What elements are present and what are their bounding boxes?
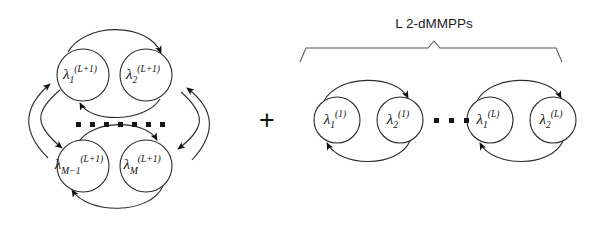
node-superscript: (L): [551, 109, 563, 120]
node-subscript: 2: [132, 75, 137, 85]
node-circle: [530, 97, 576, 143]
node-lambda-1-Lplus1[interactable]: λ1(L+1): [57, 49, 109, 101]
left-cluster-ellipsis: [76, 122, 165, 127]
figure-root: λ1(L+1) λ2(L+1) λM−1(L+1) λM(L+1): [0, 0, 614, 236]
edge-right-down: [178, 92, 199, 149]
right-cluster-ellipsis: [434, 118, 469, 123]
node-circle: [314, 97, 360, 143]
node-superscript: (L+1): [80, 154, 103, 165]
node-subscript: 1: [483, 120, 488, 130]
node-superscript: (1): [335, 109, 346, 120]
node-lambda-2-L[interactable]: λ2(L): [530, 97, 576, 143]
edge-left-down: [41, 90, 62, 148]
left-cluster-group: λ1(L+1) λ2(L+1) λM−1(L+1) λM(L+1): [29, 30, 210, 209]
node-subscript: 2: [393, 120, 398, 130]
node-circle: [467, 97, 513, 143]
edge-left-up: [29, 84, 50, 158]
edge-pairL-return: [480, 141, 563, 162]
node-lambda-M-Lplus1[interactable]: λM(L+1): [120, 140, 172, 192]
mmpp-superposition-diagram: λ1(L+1) λ2(L+1) λM−1(L+1) λM(L+1): [0, 0, 614, 236]
node-subscript: 1: [330, 120, 335, 130]
node-superscript: (1): [398, 109, 409, 120]
node-lambda-1-L[interactable]: λ1(L): [467, 97, 513, 143]
chain-brace: [300, 41, 562, 62]
node-circle: [377, 97, 423, 143]
node-superscript: (L+1): [74, 64, 97, 75]
node-superscript: (L): [488, 109, 500, 120]
right-cluster-group: L 2-dMMPPs λ1(1) λ2(1): [300, 16, 576, 162]
node-subscript: 1: [69, 75, 74, 85]
node-lambda-2-Lplus1[interactable]: λ2(L+1): [120, 49, 172, 101]
node-subscript: M: [129, 166, 139, 176]
edge-top-return: [80, 99, 160, 118]
chain-caption: L 2-dMMPPs: [395, 16, 473, 31]
node-subscript: 2: [546, 120, 551, 130]
plus-operator: +: [259, 105, 275, 135]
node-superscript: (L+1): [137, 64, 160, 75]
edge-right-up: [187, 88, 209, 160]
node-lambda-1-1[interactable]: λ1(1): [314, 97, 360, 143]
node-lambda-2-1[interactable]: λ2(1): [377, 97, 423, 143]
node-subscript: M−1: [60, 166, 80, 176]
node-superscript: (L+1): [138, 154, 161, 165]
edge-pair1-return: [327, 141, 410, 162]
